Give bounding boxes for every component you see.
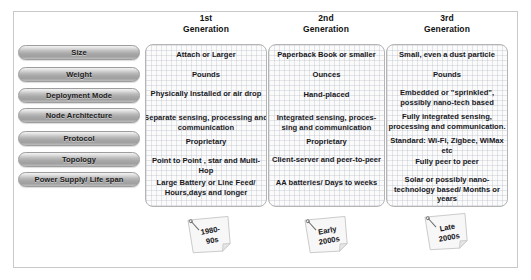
generation-header-2-line2: Generation: [267, 24, 385, 35]
attribute-pill-topology[interactable]: Topology: [18, 152, 140, 167]
generation-2-row-protocol: Proprietary: [271, 137, 382, 147]
generation-1-row-power-supply: Large Battery or Line Feed/ Hours,days a…: [148, 178, 264, 197]
generation-3-row-protocol: Standard: Wi-Fi, Zigbee, WiMax etc: [389, 136, 505, 155]
generation-3-row-deployment-mode: Embedded or "sprinkled", possibly nano-t…: [389, 88, 505, 107]
attribute-pill-label: Weight: [66, 70, 91, 79]
generation-1-row-size: Attach or Larger: [148, 50, 264, 60]
generation-column-3: Small, even a dust particle Pounds Embed…: [386, 44, 508, 207]
generation-column-1: Attach or Larger Pounds Physically Insta…: [145, 44, 267, 207]
generation-header-1-line1: 1st: [145, 13, 267, 24]
attribute-pill-label: Power Supply/ Life span: [35, 175, 124, 184]
generation-column-2: Paperback Book or smaller Ounces Hand-pl…: [268, 44, 385, 207]
generation-3-row-power-supply: Solar or possibly nano-technology based/…: [389, 175, 505, 204]
generation-1-row-weight: Pounds: [148, 70, 264, 80]
attribute-pill-label: Node Architecture: [46, 111, 112, 120]
attribute-pill-protocol[interactable]: Protocol: [18, 131, 140, 146]
attribute-pill-label: Topology: [62, 155, 96, 164]
generation-2-row-power-supply: AA batteries/ Days to weeks: [271, 178, 382, 188]
generation-2-row-topology: Client-server and peer-to-peer: [271, 155, 382, 165]
generation-3-row-node-architecture: Fully integrated sensing, processing and…: [386, 112, 508, 131]
generation-1-row-node-architecture: Separate sensing, processing and communi…: [145, 113, 267, 132]
attribute-pill-power-supply-life-span[interactable]: Power Supply/ Life span: [18, 172, 140, 187]
attribute-pill-node-architecture[interactable]: Node Architecture: [18, 108, 140, 123]
attribute-pill-label: Size: [71, 48, 86, 57]
generation-1-row-deployment-mode: Physically Installed or air drop: [148, 89, 264, 99]
generation-2-row-weight: Ounces: [271, 70, 382, 80]
generation-header-3-line1: 3rd: [386, 13, 508, 24]
generation-2-row-deployment-mode: Hand-placed: [271, 90, 382, 100]
generation-header-1: 1st Generation: [145, 13, 267, 35]
attribute-pill-size[interactable]: Size: [18, 45, 140, 60]
attribute-pill-weight[interactable]: Weight: [18, 67, 140, 82]
generation-header-3: 3rd Generation: [386, 13, 508, 35]
generation-header-2-line1: 2nd: [267, 13, 385, 24]
generation-header-2: 2nd Generation: [267, 13, 385, 35]
generation-1-row-topology: Point to Point , star and Multi-Hop: [148, 156, 264, 175]
generation-header-1-line2: Generation: [145, 24, 267, 35]
generation-1-row-protocol: Proprietary: [148, 137, 264, 147]
attribute-pill-label: Deployment Mode: [46, 91, 112, 100]
generation-3-row-size: Small, even a dust particle: [389, 50, 505, 60]
generation-3-row-topology: Fully peer to peer: [389, 157, 505, 167]
attribute-pill-label: Protocol: [63, 134, 94, 143]
generation-3-row-weight: Pounds: [389, 70, 505, 80]
generation-header-3-line2: Generation: [386, 24, 508, 35]
attribute-pill-deployment-mode[interactable]: Deployment Mode: [18, 88, 140, 103]
figure-canvas: 1st Generation 2nd Generation 3rd Genera…: [0, 0, 531, 280]
generation-2-row-node-architecture: Integrated sensing, proces-sing and comm…: [271, 113, 382, 132]
generation-2-row-size: Paperback Book or smaller: [268, 50, 385, 60]
